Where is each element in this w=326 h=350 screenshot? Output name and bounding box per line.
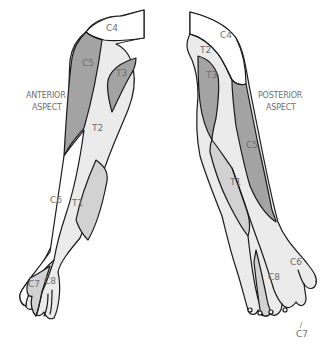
dermatome-diagram: C4 C5 T3 T2 ANTERIOR ASPECT C6 T1 C7 C8 — [0, 0, 326, 350]
posterior-label-c4: C4 — [220, 30, 232, 40]
posterior-label-c6: C6 — [290, 257, 302, 267]
posterior-c7-leader — [300, 322, 302, 328]
posterior-aspect-line2: ASPECT — [266, 103, 296, 112]
anterior-arm — [20, 10, 144, 319]
posterior-nail-2 — [258, 311, 262, 315]
posterior-nail-4 — [283, 308, 287, 312]
anterior-label-t1: T1 — [71, 198, 83, 208]
posterior-label-c8: C8 — [268, 272, 280, 282]
anterior-label-t2: T2 — [91, 123, 103, 133]
posterior-arm — [187, 12, 316, 316]
posterior-label-t2: T2 — [199, 45, 211, 55]
anterior-label-c5: C5 — [82, 58, 94, 68]
posterior-label-c5: C5 — [246, 140, 258, 150]
anterior-aspect-line2: ASPECT — [32, 103, 62, 112]
posterior-label-t1: T1 — [229, 177, 241, 187]
posterior-nail-1 — [269, 310, 273, 314]
posterior-aspect-line1: POSTERIOR — [258, 91, 303, 100]
anterior-label-c7: C7 — [28, 279, 40, 289]
anterior-label-t3: T3 — [115, 68, 127, 78]
anterior-label-c6: C6 — [50, 195, 62, 205]
anterior-label-c8: C8 — [44, 276, 56, 286]
anterior-label-c4: C4 — [106, 23, 118, 33]
posterior-label-t3: T3 — [205, 70, 217, 80]
posterior-nail-3 — [248, 308, 252, 312]
posterior-label-c7: C7 — [296, 329, 308, 339]
anterior-aspect-line1: ANTERIOR — [26, 91, 66, 100]
